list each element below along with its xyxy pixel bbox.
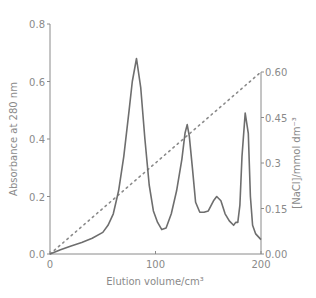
x-axis-label: Elution volume/cm³ — [106, 276, 203, 287]
right-y-tick-label: 0.15 — [265, 204, 287, 215]
y-tick-label: 0.2 — [29, 192, 45, 203]
x-tick-label: 100 — [146, 259, 165, 270]
y-tick-label: 0.0 — [29, 249, 45, 260]
nacl-gradient-line — [50, 72, 261, 254]
y-tick-label: 0.6 — [29, 77, 45, 88]
x-tick-label: 0 — [47, 259, 53, 270]
y-tick-label: 0.4 — [29, 134, 45, 145]
left-y-axis-label: Absorbance at 280 nm — [8, 82, 19, 196]
right-y-ticks: 0.000.150.30.450.60 — [261, 67, 287, 260]
left-y-ticks: 0.00.20.40.60.8 — [29, 19, 50, 260]
right-y-axis-label: [NaCl]/mmol dm⁻³ — [291, 117, 302, 208]
right-y-tick-label: 0.60 — [265, 67, 287, 78]
y-tick-label: 0.8 — [29, 19, 45, 30]
right-y-tick-label: 0.45 — [265, 113, 287, 124]
right-y-tick-label: 0.3 — [265, 158, 281, 169]
x-tick-label: 200 — [251, 259, 270, 270]
chromatogram-chart: 0.00.20.40.60.8 0.000.150.30.450.60 0100… — [0, 0, 316, 298]
absorbance-line — [50, 59, 261, 255]
